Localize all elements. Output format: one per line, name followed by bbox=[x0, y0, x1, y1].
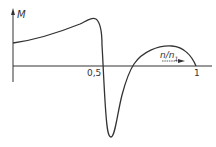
y-axis-label: M bbox=[17, 10, 26, 20]
y-axis-arrow-icon bbox=[11, 8, 15, 15]
torque-curve bbox=[13, 18, 196, 137]
x-axis-label-main: n/n bbox=[160, 50, 174, 60]
x-axis-label-sub: 1 bbox=[174, 55, 178, 62]
tick-label-one: 1 bbox=[194, 69, 200, 78]
torque-speed-diagram bbox=[0, 0, 216, 147]
x-direction-arrow-icon bbox=[178, 59, 185, 63]
x-axis-label: n/n1 bbox=[160, 51, 178, 62]
tick-label-half: 0,5 bbox=[87, 69, 101, 78]
